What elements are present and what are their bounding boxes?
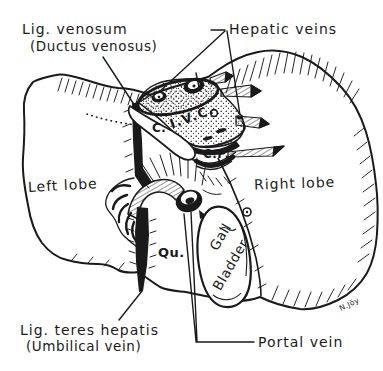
quadrate-lobe-label: Qu. — [158, 245, 185, 260]
caudate-lobe-label: C. — [152, 121, 166, 135]
liver-diagram-svg: Lig. venosum (Ductus venosus) Hepatic ve… — [0, 0, 383, 371]
lig-teres-label-line2: (Umbilical vein) — [26, 338, 141, 354]
lig-teres-label-line1: Lig. teres hepatis — [20, 322, 159, 338]
lig-venosum-label-line1: Lig. venosum — [22, 21, 128, 37]
hepatic-veins-label: Hepatic veins — [229, 21, 337, 37]
ligamentum-teres-band — [135, 207, 149, 292]
lig-teres-leader — [119, 291, 142, 320]
liver-diagram: Lig. venosum (Ductus venosus) Hepatic ve… — [0, 0, 383, 371]
portal-vein-label: Portal vein — [258, 334, 343, 350]
right-lobe-label: Right lobe — [254, 174, 336, 193]
caudate-process-label: C.P. — [203, 147, 230, 161]
cystic-vessel-dot — [246, 211, 248, 213]
lig-venosum-label-line2: (Ductus venosus) — [30, 38, 157, 54]
